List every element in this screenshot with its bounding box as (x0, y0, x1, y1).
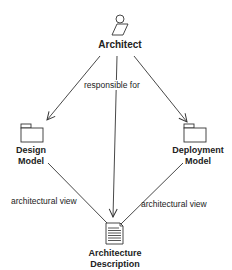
edge-label-responsible-for: responsible for (84, 80, 140, 90)
edge-architect-deployment (134, 56, 187, 122)
folder-icon (21, 124, 43, 142)
edge-label-architectural-view-left: architectural view (11, 196, 77, 206)
deployment-model-label-line2: Model (168, 156, 228, 167)
edge-deployment-description (121, 163, 183, 224)
design-model-label: Design Model (6, 145, 56, 167)
architecture-description-label: Architecture Description (80, 248, 150, 270)
architecture-description-label-line1: Architecture (80, 248, 150, 259)
design-model-label-line2: Model (6, 156, 56, 167)
folder-icon (184, 124, 206, 142)
document-icon (106, 223, 123, 244)
design-model-label-line1: Design (6, 145, 56, 156)
deployment-model-label: Deployment Model (168, 145, 228, 167)
architect-label: Architect (92, 39, 148, 50)
edge-design-description (48, 163, 108, 224)
edge-label-architectural-view-right: architectural view (141, 199, 207, 209)
architecture-description-label-line2: Description (80, 259, 150, 270)
deployment-model-label-line1: Deployment (168, 145, 228, 156)
actor-icon (112, 15, 128, 35)
